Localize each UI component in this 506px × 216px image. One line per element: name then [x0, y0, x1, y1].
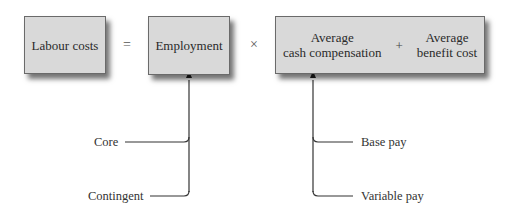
base-pay-label: Base pay: [361, 135, 406, 150]
avg-benefit-line1: Average: [425, 30, 468, 45]
contingent-branch: [150, 191, 189, 196]
labour-costs-box: Labour costs: [24, 16, 106, 74]
employment-box: Employment: [148, 16, 230, 75]
variable-pay-label: Variable pay: [361, 189, 424, 204]
equals-sign: =: [123, 37, 131, 53]
compensation-arrow: [310, 71, 353, 196]
compensation-box: Average cash compensation + Average bene…: [275, 16, 485, 74]
base-pay-branch: [313, 137, 353, 142]
contingent-label: Contingent: [88, 189, 144, 204]
avg-benefit-cost: Average benefit cost: [417, 30, 477, 60]
variable-pay-branch: [313, 191, 353, 196]
avg-cash-line1: Average: [311, 30, 354, 45]
employment-label: Employment: [155, 38, 222, 53]
employment-arrow: [125, 71, 192, 196]
times-sign: ×: [250, 37, 258, 53]
core-branch: [125, 137, 189, 142]
labour-costs-label: Labour costs: [32, 38, 99, 53]
avg-cash-line2: cash compensation: [283, 45, 382, 60]
plus-sign: +: [395, 38, 402, 53]
core-label: Core: [94, 135, 118, 150]
avg-benefit-line2: benefit cost: [417, 45, 477, 60]
avg-cash-compensation: Average cash compensation: [283, 30, 382, 60]
